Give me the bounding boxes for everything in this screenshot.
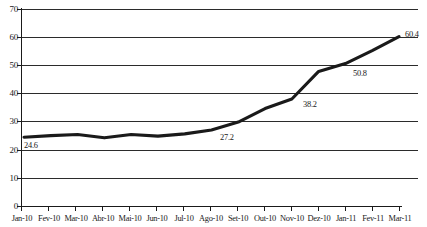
- data-line-series-1: [24, 37, 399, 138]
- data-label-ago-10: 27.2: [220, 133, 234, 142]
- data-label-mar-11: 60.4: [405, 30, 419, 39]
- data-label-nov-10: 38.2: [303, 100, 317, 109]
- x-axis-ticks: [22, 207, 400, 211]
- data-label-jan-11: 50.8: [353, 69, 367, 78]
- data-label-jan-10: 24.6: [24, 141, 38, 150]
- x-axis-label-mar-11: Mar-11: [379, 214, 421, 223]
- line-chart: 70 60 50 40 30 20 10 0: [0, 0, 427, 227]
- plot-area: [0, 0, 427, 227]
- y-axis-ticks: [17, 10, 21, 207]
- grid-lines: [21, 10, 418, 179]
